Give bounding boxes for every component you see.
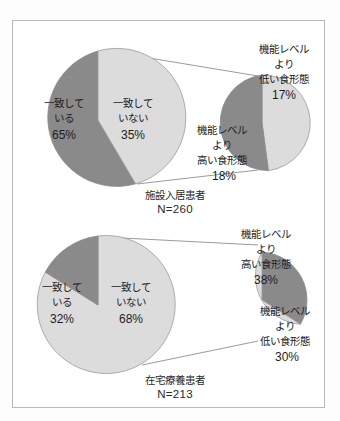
- label-facility-higher-line1: 機能レベル: [197, 124, 247, 136]
- label-facility-lower-line3: 低い食形態: [259, 73, 309, 85]
- label-homecare-higher-line1: 機能レベル: [241, 228, 291, 240]
- caption-homecare-n: N=213: [157, 388, 193, 400]
- label-homecare-lower-line2: より: [275, 320, 295, 332]
- label-facility-mismatch-line1: 一致して: [113, 97, 153, 109]
- caption-facility-n: N=260: [157, 203, 193, 215]
- label-homecare-match-line2: いる: [52, 296, 72, 308]
- label-homecare-lower-line1: 機能レベル: [260, 305, 310, 317]
- label-facility-match-line1: 一致して: [44, 97, 84, 109]
- label-homecare-match-line1: 一致して: [42, 281, 82, 293]
- label-facility-match-value: 65%: [52, 128, 76, 142]
- charts-canvas: 一致して いる 65% 一致して いない 35% 機能レベル より 低い食形態 …: [0, 0, 340, 421]
- chart-group-home-care-patients: 一致して いる 32% 一致して いない 68% 機能レベル より 高い食形態 …: [37, 228, 310, 400]
- label-homecare-mismatch-line2: いない: [116, 296, 146, 308]
- label-facility-higher-line2: より: [212, 139, 232, 151]
- figure-root: 一致して いる 65% 一致して いない 35% 機能レベル より 低い食形態 …: [0, 0, 340, 421]
- chart-group-facility-residents: 一致して いる 65% 一致して いない 35% 機能レベル より 低い食形態 …: [44, 43, 310, 215]
- label-homecare-higher-line2: より: [256, 243, 276, 255]
- label-facility-match-line2: いる: [54, 112, 74, 124]
- label-homecare-mismatch-line1: 一致して: [111, 281, 151, 293]
- label-homecare-match-value: 32%: [50, 312, 74, 326]
- label-facility-mismatch-value: 35%: [121, 128, 145, 142]
- label-homecare-lower-texture: 機能レベル より 低い食形態 30%: [260, 305, 310, 364]
- caption-homecare-title: 在宅療養患者: [145, 374, 205, 386]
- caption-facility-title: 施設入居患者: [145, 189, 205, 201]
- label-homecare-lower-value: 30%: [275, 350, 299, 364]
- label-facility-mismatch-line2: いない: [118, 112, 148, 124]
- label-facility-lower-line2: より: [274, 58, 294, 70]
- label-facility-higher-line3: 高い食形態: [197, 154, 247, 166]
- label-facility-lower-value: 17%: [272, 88, 296, 102]
- label-facility-higher-value: 18%: [212, 169, 236, 183]
- label-homecare-higher-value: 38%: [254, 273, 278, 287]
- label-homecare-lower-line3: 低い食形態: [260, 335, 310, 347]
- label-homecare-mismatch-value: 68%: [119, 312, 143, 326]
- label-facility-lower-line1: 機能レベル: [259, 43, 309, 55]
- label-homecare-higher-line3: 高い食形態: [241, 258, 291, 270]
- label-facility-higher-texture: 機能レベル より 高い食形態 18%: [197, 124, 247, 183]
